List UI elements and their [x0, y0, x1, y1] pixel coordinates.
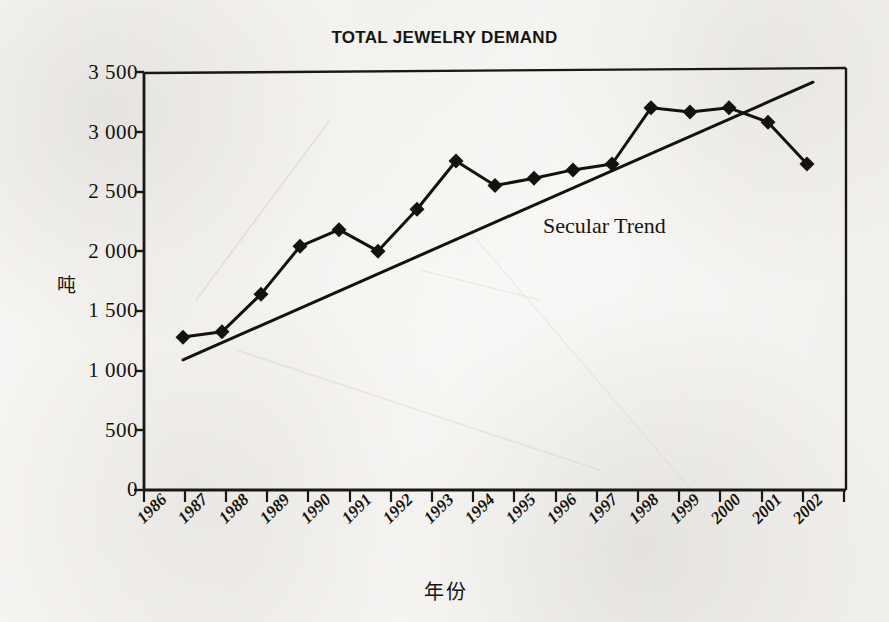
plot-area	[0, 0, 889, 622]
data-point-marker-1994	[488, 178, 503, 193]
data-point-marker-1999	[683, 105, 698, 120]
data-point-marker-1995	[527, 171, 542, 186]
plot-top-border	[144, 68, 846, 73]
axes-frame	[144, 68, 846, 490]
x-axis-ticks	[144, 490, 844, 502]
data-point-marker-2000	[722, 100, 737, 115]
data-point-marker-1996	[566, 162, 581, 177]
data-point-marker-1986	[176, 330, 191, 345]
chart-page: TOTAL JEWELRY DEMAND 3 500 3 000 2 500 2…	[0, 0, 889, 622]
data-point-marker-1990	[332, 222, 347, 237]
secular-trend-line	[183, 82, 813, 360]
y-axis-ticks	[134, 72, 144, 490]
